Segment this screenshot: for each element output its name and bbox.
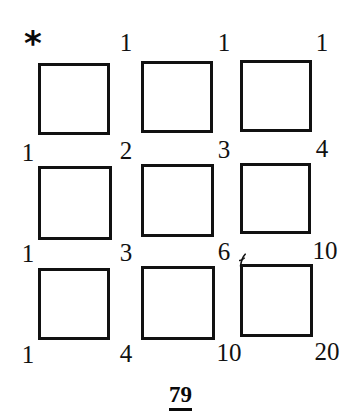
figure-caption: 79 [0,383,361,411]
label-r0c1: 1 [120,30,133,55]
square-r2c1 [38,166,112,240]
label-r0c2: 1 [218,30,231,55]
label-r3c2: 10 [217,340,242,365]
asterisk-icon: * [24,26,42,60]
square-r1c1 [38,63,110,135]
label-r1c1: 2 [120,138,133,163]
square-r2c2 [141,164,214,237]
square-r3c2 [141,266,215,340]
square-r1c2 [141,61,213,133]
label-r3c1: 4 [120,341,133,366]
figure-number: 79 [169,383,192,411]
label-r0c3: 1 [316,30,329,55]
square-r3c3 [240,264,313,337]
figure-container: * 111123413610141020 79 [0,0,361,413]
pen-stroke-artifact-icon [239,253,249,265]
square-r2c3 [240,163,311,234]
label-r3c3: 20 [315,339,340,364]
label-r2c3: 10 [313,238,338,263]
label-r2c2: 6 [218,239,231,264]
label-r1c2: 3 [218,137,231,162]
label-r2c0: 1 [22,241,35,266]
label-r1c0: 1 [22,140,35,165]
square-r1c3 [240,60,312,132]
label-r3c0: 1 [22,342,35,367]
label-r2c1: 3 [120,240,133,265]
square-r3c1 [38,268,110,340]
label-r1c3: 4 [316,136,329,161]
